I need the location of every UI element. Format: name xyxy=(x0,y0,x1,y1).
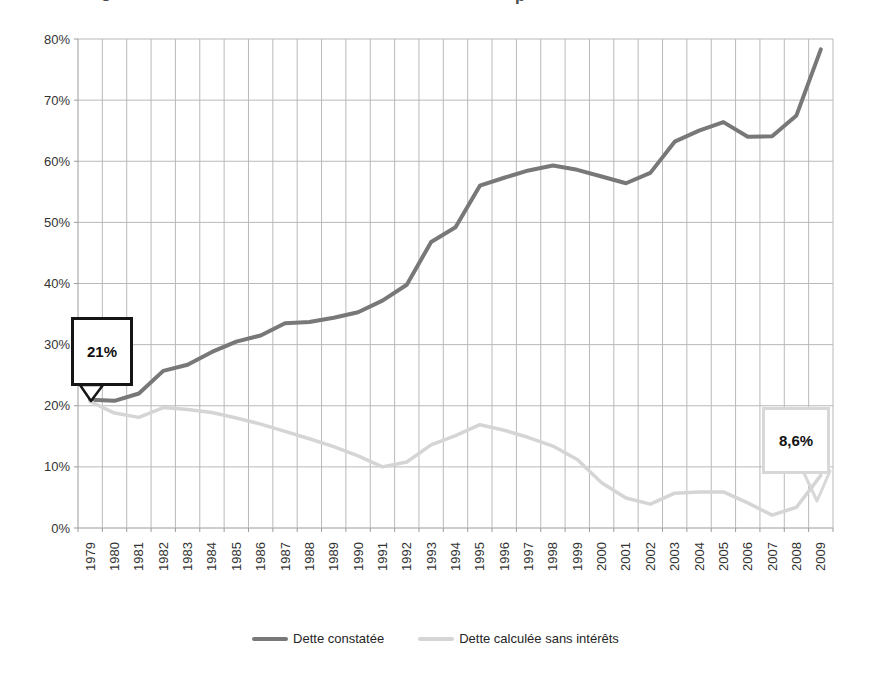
y-tick-label: 40% xyxy=(44,276,70,291)
x-tick-label: 1985 xyxy=(229,542,244,571)
callout-8-6pct-text: 8,6% xyxy=(779,432,813,449)
legend-line-swatch-light xyxy=(418,637,454,641)
callout-21pct-text: 21% xyxy=(87,343,117,360)
legend-item-dette-constatee: Dette constatée xyxy=(252,631,384,646)
x-tick-label: 1979 xyxy=(83,542,98,571)
x-tick-label: 1981 xyxy=(131,542,146,571)
x-tick-label: 2009 xyxy=(813,542,828,571)
x-tick-label: 2002 xyxy=(643,542,658,571)
x-tick-label: 1995 xyxy=(472,542,487,571)
y-tick-label: 80% xyxy=(44,32,70,47)
x-tick-label: 2003 xyxy=(667,542,682,571)
callout-21pct: 21% xyxy=(71,317,133,386)
y-tick-label: 60% xyxy=(44,154,70,169)
x-tick-label: 1990 xyxy=(351,542,366,571)
callout-8-6pct-tail xyxy=(803,471,830,501)
legend-line-swatch-dark xyxy=(252,637,288,641)
x-tick-label: 1998 xyxy=(545,542,560,571)
x-tick-label: 1984 xyxy=(204,542,219,571)
x-tick-label: 1983 xyxy=(180,542,195,571)
x-tick-label: 1996 xyxy=(497,542,512,571)
y-tick-label: 0% xyxy=(51,521,70,536)
callout-8-6pct: 8,6% xyxy=(762,407,830,474)
axis-labels: 0%10%20%30%40%50%60%70%80%19791980198119… xyxy=(44,32,828,571)
x-tick-label: 1989 xyxy=(326,542,341,571)
chart-page: g p 0%10%20%30%40%50%60%70%80%1979198019… xyxy=(0,0,871,693)
y-tick-label: 70% xyxy=(44,93,70,108)
x-tick-label: 1986 xyxy=(253,542,268,571)
gridlines xyxy=(78,39,833,528)
x-tick-label: 1993 xyxy=(424,542,439,571)
x-tick-label: 1987 xyxy=(278,542,293,571)
x-tick-label: 1992 xyxy=(399,542,414,571)
legend-item-dette-sans-interets: Dette calculée sans intérêts xyxy=(418,631,619,646)
x-tick-label: 2000 xyxy=(594,542,609,571)
x-tick-label: 2007 xyxy=(765,542,780,571)
x-tick-label: 1982 xyxy=(156,542,171,571)
x-tick-label: 1997 xyxy=(521,542,536,571)
x-tick-label: 2006 xyxy=(740,542,755,571)
x-tick-label: 1980 xyxy=(107,542,122,571)
legend-label-dette-constatee: Dette constatée xyxy=(293,631,384,646)
x-tick-label: 1991 xyxy=(375,542,390,571)
y-tick-label: 20% xyxy=(44,398,70,413)
y-tick-label: 50% xyxy=(44,215,70,230)
x-tick-label: 1994 xyxy=(448,542,463,571)
y-tick-label: 30% xyxy=(44,337,70,352)
x-tick-label: 2004 xyxy=(692,542,707,571)
legend-label-dette-sans-interets: Dette calculée sans intérêts xyxy=(459,631,619,646)
axis-ticks xyxy=(74,39,833,532)
chart-legend: Dette constatée Dette calculée sans inté… xyxy=(0,631,871,646)
x-tick-label: 2005 xyxy=(716,542,731,571)
x-tick-label: 1988 xyxy=(302,542,317,571)
y-tick-label: 10% xyxy=(44,459,70,474)
x-tick-label: 2001 xyxy=(618,542,633,571)
x-tick-label: 1999 xyxy=(570,542,585,571)
x-tick-label: 2008 xyxy=(789,542,804,571)
